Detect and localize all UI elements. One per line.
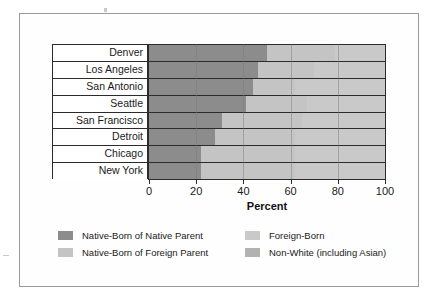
bar-track (148, 128, 386, 145)
bar-segment (215, 129, 295, 145)
x-axis-tick (243, 179, 244, 184)
scan-artifact-left (3, 255, 9, 256)
legend-swatch (245, 231, 260, 240)
bar-segment (246, 96, 307, 112)
bar-row: Detroit (52, 128, 386, 145)
bar-row-label: Los Angeles (52, 61, 148, 78)
bar-segment (295, 129, 385, 145)
legend-label: Native-Born of Foreign Parent (82, 247, 208, 258)
bar-row-label: New York (52, 162, 148, 179)
bar-track (148, 145, 386, 162)
bar-segment (307, 96, 385, 112)
x-axis-tick-label: 100 (365, 185, 405, 197)
x-axis-tick (291, 179, 292, 184)
bar-segment (253, 79, 295, 95)
bar-segment (149, 45, 267, 61)
bar-segment (201, 163, 295, 179)
bar-segment (149, 146, 201, 162)
x-axis-tick (338, 179, 339, 184)
bar-segment (149, 79, 253, 95)
x-axis-tick (196, 179, 197, 184)
figure-root: DenverLos AngelesSan AntonioSeattleSan F… (0, 0, 440, 304)
bar-row: Seattle (52, 95, 386, 112)
bar-segment (201, 146, 295, 162)
bar-row: San Antonio (52, 78, 386, 95)
bar-row-label: Chicago (52, 145, 148, 162)
x-axis-tick-label: 20 (176, 185, 216, 197)
legend-swatch (58, 248, 73, 257)
bar-segment (222, 113, 302, 129)
bar-segment (302, 113, 385, 129)
bar-segment (314, 62, 385, 78)
legend-item: Native-Born of Foreign Parent (58, 245, 208, 260)
bar-track (148, 162, 386, 179)
bar-row: Denver (52, 44, 386, 61)
scan-artifact-top (104, 8, 107, 12)
bar-track (148, 112, 386, 129)
bar-row: New York (52, 162, 386, 179)
bar-track (148, 78, 386, 95)
bar-track (148, 95, 386, 112)
bar-segment (267, 45, 335, 61)
legend-swatch (58, 231, 73, 240)
x-axis-title: Percent (148, 200, 386, 212)
x-axis-tick (149, 179, 150, 184)
legend-swatch (245, 248, 260, 257)
bar-segment (149, 163, 201, 179)
bar-row-label: Detroit (52, 128, 148, 145)
bar-segment (149, 96, 246, 112)
bar-segment (295, 79, 385, 95)
bar-row-label: San Francisco (52, 112, 148, 129)
bar-row-label: San Antonio (52, 78, 148, 95)
legend-item: Non-White (including Asian) (245, 245, 386, 260)
chart-legend: Native-Born of Native ParentNative-Born … (58, 228, 404, 264)
bar-row: Los Angeles (52, 61, 386, 78)
bar-segment (295, 146, 385, 162)
bar-segment (149, 62, 258, 78)
bar-segment (335, 45, 385, 61)
x-axis-tick (385, 179, 386, 184)
bar-segment (258, 62, 315, 78)
legend-item: Native-Born of Native Parent (58, 228, 203, 243)
bar-row: Chicago (52, 145, 386, 162)
bar-track (148, 44, 386, 61)
legend-label: Foreign-Born (269, 230, 324, 241)
bar-row-label: Seattle (52, 95, 148, 112)
x-axis-tick-label: 40 (223, 185, 263, 197)
bar-segment (149, 129, 215, 145)
x-axis-tick-label: 60 (271, 185, 311, 197)
stacked-bar-plot: DenverLos AngelesSan AntonioSeattleSan F… (52, 44, 386, 179)
legend-label: Non-White (including Asian) (269, 247, 386, 258)
x-axis-tick-label: 0 (129, 185, 169, 197)
bar-row-label: Denver (52, 44, 148, 61)
x-axis-tick-label: 80 (318, 185, 358, 197)
legend-item: Foreign-Born (245, 228, 324, 243)
bar-segment (295, 163, 385, 179)
legend-label: Native-Born of Native Parent (82, 230, 203, 241)
bar-segment (149, 113, 222, 129)
bar-row: San Francisco (52, 112, 386, 129)
bar-track (148, 61, 386, 78)
x-axis-line (148, 179, 386, 180)
